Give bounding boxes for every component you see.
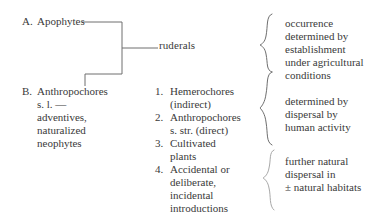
list-item: 4. Accidental or deliberate, incidental … xyxy=(155,163,241,215)
list-item-number: 2. xyxy=(155,111,170,124)
right-block-dispersal: determined by dispersal by human activit… xyxy=(285,95,351,134)
junction-label-ruderals: ruderals xyxy=(159,39,195,52)
brace-1 xyxy=(260,14,272,72)
entry-label: Anthropochores s. l. — adventives, natur… xyxy=(37,85,108,150)
brace-3 xyxy=(263,150,274,210)
list-item-number: 3. xyxy=(155,137,170,150)
list-item-label: Cultivated plants xyxy=(170,137,216,163)
brace-2 xyxy=(260,72,272,145)
right-block-natural-habitats: further natural dispersal in ± natural h… xyxy=(285,155,361,194)
list-item-number: 4. xyxy=(155,163,170,176)
list-item: 1. Hemerochores (indirect) xyxy=(155,85,241,111)
entry-marker: B. xyxy=(22,85,37,98)
list-item-label: Accidental or deliberate, incidental int… xyxy=(170,163,230,215)
entry-anthropochores: B. Anthropochores s. l. — adventives, na… xyxy=(22,85,108,150)
list-item: 2. Anthropochores s. str. (direct) xyxy=(155,111,241,137)
list-item-label: Anthropochores s. str. (direct) xyxy=(170,111,241,137)
right-block-occurrence: occurrence determined by establishment u… xyxy=(285,17,364,82)
entry-apophytes: A. Apophytes xyxy=(22,15,85,28)
entry-label: Apophytes xyxy=(37,15,85,28)
entry-marker: A. xyxy=(22,15,37,28)
list-item: 3. Cultivated plants xyxy=(155,137,241,163)
numbered-list: 1. Hemerochores (indirect) 2. Anthropoch… xyxy=(155,85,241,215)
classification-diagram: A. Apophytes B. Anthropochores s. l. — a… xyxy=(0,0,392,221)
list-item-number: 1. xyxy=(155,85,170,98)
list-item-label: Hemerochores (indirect) xyxy=(170,85,234,111)
